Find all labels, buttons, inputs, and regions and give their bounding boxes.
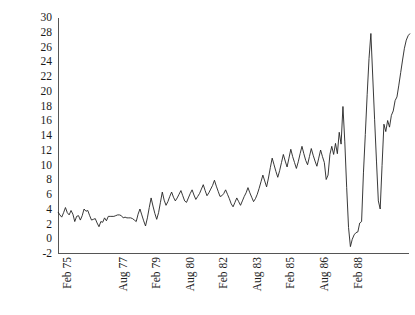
y-axis-tick-label: 12	[2, 145, 52, 157]
y-axis-tick-label: 0	[2, 233, 52, 245]
x-axis-tick-label: Feb 75	[62, 257, 74, 289]
y-axis-tick-label: 16	[2, 115, 52, 127]
series-line-svg	[58, 18, 410, 254]
y-axis-tick-label: 22	[2, 71, 52, 83]
y-axis-tick-label: 30	[2, 12, 52, 24]
x-axis-tick-label: Aug 86	[319, 257, 331, 291]
y-axis-tick-label: 28	[2, 27, 52, 39]
y-axis-tick-label: 26	[2, 42, 52, 54]
y-axis-tick-label: 8	[2, 174, 52, 186]
y-axis-tick-label: 24	[2, 56, 52, 68]
y-axis-tick-label: 4	[2, 204, 52, 216]
y-axis-tick-label: 20	[2, 86, 52, 98]
x-axis-tick-label: Feb 85	[285, 257, 297, 289]
y-axis-tick-label: 2	[2, 219, 52, 231]
x-axis-tick-label: Feb 88	[353, 257, 365, 289]
y-axis-tick-label: 18	[2, 101, 52, 113]
line-chart: 302826242220181614121086420-2 Feb 75Aug …	[0, 0, 415, 315]
x-axis-tick-label: Feb 79	[151, 257, 163, 289]
y-axis-tick-label: 10	[2, 160, 52, 172]
series-1-polyline	[58, 33, 410, 246]
x-axis-tick-labels: Feb 75Aug 77Feb 79Aug 80Feb 82Aug 83Feb …	[0, 253, 415, 315]
x-axis-tick-label: Aug 77	[118, 257, 130, 291]
y-axis-tick-label: 6	[2, 189, 52, 201]
x-axis-tick-label: Aug 83	[252, 257, 264, 291]
x-axis-tick-label: Aug 80	[185, 257, 197, 291]
y-axis-tick-label: 14	[2, 130, 52, 142]
x-axis-tick-label: Feb 82	[218, 257, 230, 289]
plot-area	[58, 18, 410, 254]
